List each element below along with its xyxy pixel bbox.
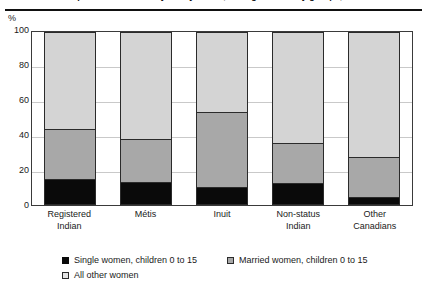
chart-legend: Single women, children 0 to 15 Married w…	[62, 254, 412, 281]
bar-segment-married-women	[348, 157, 400, 198]
bar-segment-single-women	[348, 197, 400, 205]
x-label-registered-indian: RegisteredIndian	[33, 209, 105, 243]
bar-segment-married-women	[120, 139, 172, 181]
bar-segment-single-women	[196, 187, 248, 205]
legend-label-all-other-women: All other women	[74, 269, 139, 281]
bar-segment-married-women	[196, 112, 248, 187]
x-label-non-status-indian: Non-statusIndian	[262, 209, 334, 243]
legend-item-all-other-women[interactable]: All other women	[62, 269, 227, 281]
bar-segment-single-women	[120, 182, 172, 205]
page-title: Proportion of women by family status, Ab…	[62, 0, 365, 1]
x-label-other-canadians: OtherCanadians	[339, 209, 411, 243]
bar-registered-indian[interactable]	[44, 32, 96, 205]
x-label-m-tis: Métis	[110, 209, 182, 243]
bar-m-tis[interactable]	[120, 32, 172, 205]
x-label-inuit: Inuit	[186, 209, 258, 243]
legend-label-single-women: Single women, children 0 to 15	[74, 254, 197, 266]
y-tick-0: 0	[3, 201, 29, 210]
gray-square-icon	[227, 257, 234, 264]
y-tick-40: 40	[3, 131, 29, 140]
y-tick-20: 20	[3, 166, 29, 175]
y-tick-80: 80	[3, 61, 29, 70]
chart-container: Proportion of women by family status, Ab…	[0, 0, 427, 293]
legend-item-single-women[interactable]: Single women, children 0 to 15	[62, 254, 227, 266]
bar-segment-all-other-women	[44, 32, 96, 129]
y-axis-tick-labels: 100 80 60 40 20 0	[0, 0, 29, 206]
light-gray-square-icon	[62, 272, 69, 279]
bar-series-group	[32, 32, 412, 205]
bar-other-canadians[interactable]	[348, 32, 400, 205]
bar-segment-single-women	[44, 179, 96, 205]
bar-segment-married-women	[272, 143, 324, 184]
y-tick-60: 60	[3, 96, 29, 105]
black-square-icon	[62, 257, 69, 264]
legend-item-married-women[interactable]: Married women, children 0 to 15	[227, 254, 368, 266]
bar-segment-all-other-women	[272, 32, 324, 143]
chart-title-strip: Proportion of women by family status, Ab…	[0, 0, 427, 9]
bar-segment-single-women	[272, 183, 324, 205]
bar-non-status-indian[interactable]	[272, 32, 324, 205]
bar-segment-all-other-women	[348, 32, 400, 157]
title-divider	[5, 9, 422, 11]
x-axis-category-labels: RegisteredIndianMétisInuitNon-statusIndi…	[31, 209, 413, 243]
bar-segment-all-other-women	[120, 32, 172, 139]
bar-inuit[interactable]	[196, 32, 248, 205]
plot-area	[31, 31, 413, 206]
y-tick-100: 100	[3, 26, 29, 35]
bar-segment-married-women	[44, 129, 96, 179]
legend-label-married-women: Married women, children 0 to 15	[239, 254, 368, 266]
bar-segment-all-other-women	[196, 32, 248, 112]
